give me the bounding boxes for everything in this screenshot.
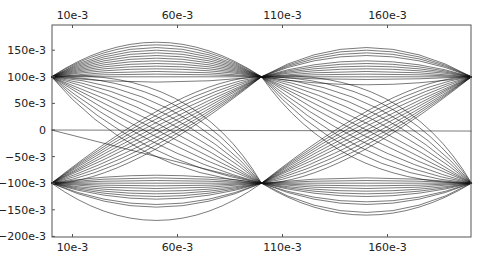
- curve: [262, 53, 472, 77]
- x-tick-label: 160e-3: [368, 9, 407, 22]
- x-tick-label: 10e-3: [57, 241, 89, 254]
- curve: [52, 53, 262, 77]
- y-tick-label: 50e-3: [14, 97, 46, 110]
- curve: [52, 77, 262, 82]
- curve: [262, 183, 472, 215]
- y-tick-label: −150e-3: [0, 204, 46, 217]
- y-tick-label: −100e-3: [0, 177, 46, 190]
- y-tick-label: 150e-3: [7, 44, 46, 57]
- y-tick-label: −50e-3: [5, 151, 46, 164]
- x-tick-label: 110e-3: [263, 9, 302, 22]
- curve: [52, 183, 262, 207]
- line-chart: 10e-360e-3110e-3160e-3 10e-360e-3110e-31…: [0, 0, 480, 256]
- y-tick-label: 0: [39, 124, 46, 137]
- x-tick-label: 160e-3: [368, 241, 407, 254]
- y-tick-label: 100e-3: [7, 71, 46, 84]
- x-tick-label: 60e-3: [162, 9, 194, 22]
- y-tick-label: −200e-3: [0, 230, 46, 243]
- x-tick-label: 10e-3: [57, 9, 89, 22]
- x-tick-label: 110e-3: [263, 241, 302, 254]
- y-axis: 150e-3100e-350e-30−50e-3−100e-3−150e-3−2…: [0, 44, 55, 243]
- straight-line: [52, 130, 472, 131]
- x-tick-label: 60e-3: [162, 241, 194, 254]
- plot-curves: [52, 42, 472, 220]
